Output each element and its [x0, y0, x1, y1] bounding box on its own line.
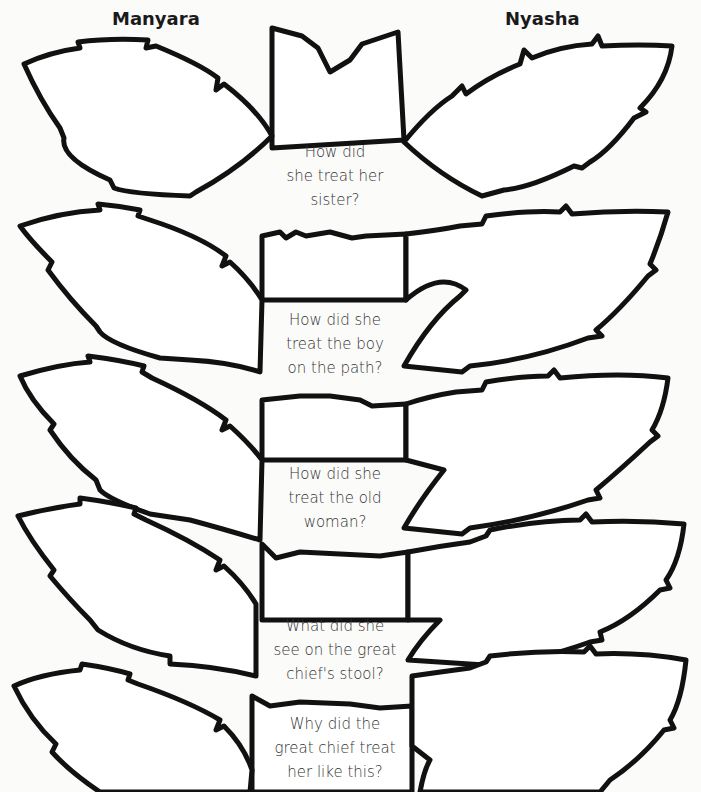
question-1-line-1: How did [260, 140, 410, 164]
stem-2 [262, 232, 406, 300]
stem-3 [262, 396, 406, 460]
left-leaf-2 [20, 204, 262, 372]
question-2-line-2: treat the boy [260, 332, 410, 356]
question-2-line-3: on the path? [260, 356, 410, 380]
stem-1 [272, 28, 404, 148]
question-4-line-2: see on the great [260, 638, 410, 662]
right-leaf-3 [404, 370, 668, 534]
left-leaf-1 [24, 39, 272, 196]
question-5-line-3: her like this? [260, 760, 410, 784]
question-3-line-3: woman? [260, 510, 410, 534]
question-2: How did she treat the boy on the path? [260, 308, 410, 380]
question-3: How did she treat the old woman? [260, 462, 410, 534]
question-1: How did she treat her sister? [260, 140, 410, 212]
stem-4 [262, 544, 408, 620]
question-3-line-2: treat the old [260, 486, 410, 510]
question-1-line-2: she treat her [260, 164, 410, 188]
right-leaf-4 [408, 514, 684, 666]
right-leaf-1 [404, 36, 672, 196]
question-2-line-1: How did she [260, 308, 410, 332]
question-4-line-1: What did she [260, 614, 410, 638]
question-1-line-3: sister? [260, 188, 410, 212]
question-4: What did she see on the great chief's st… [260, 614, 410, 686]
right-leaf-2 [404, 206, 668, 372]
question-5: Why did the great chief treat her like t… [260, 712, 410, 784]
left-leaf-5 [14, 664, 252, 792]
question-5-line-2: great chief treat [260, 736, 410, 760]
question-3-line-1: How did she [260, 462, 410, 486]
question-5-line-1: Why did the [260, 712, 410, 736]
right-leaf-5 [412, 646, 686, 792]
question-4-line-3: chief's stool? [260, 662, 410, 686]
